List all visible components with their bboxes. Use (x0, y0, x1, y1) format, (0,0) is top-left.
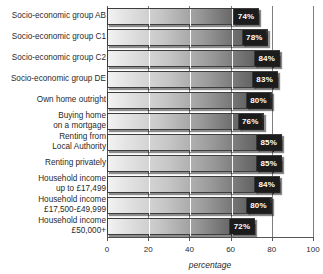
x-tick-label-20: 20 (144, 245, 153, 254)
plot-area: 74%78%84%83%80%76%85%85%84%80%72% 020406… (107, 6, 313, 238)
x-tick-mark-20 (148, 237, 149, 241)
bar-value-label: 80% (246, 93, 271, 108)
category-label: Renting privately (0, 158, 106, 168)
bar-gridline-tick (149, 177, 150, 194)
bar-value-label: 72% (230, 219, 255, 234)
bar-value-label: 85% (256, 135, 281, 150)
x-axis-label: percentage (107, 260, 313, 270)
bar-gridline-tick (190, 9, 191, 26)
bar-row: 83% (107, 71, 313, 88)
bar-gridline-tick (232, 93, 233, 110)
bar-gridline-tick (190, 72, 191, 89)
bar-row: 80% (107, 197, 313, 214)
bar-row: 76% (107, 113, 313, 130)
x-tick-label-100: 100 (306, 245, 319, 254)
bar-row: 78% (107, 29, 313, 46)
bar-gridline-tick (232, 198, 233, 215)
bar-gridline-tick (149, 114, 150, 131)
x-tick-label-0: 0 (105, 245, 109, 254)
bar-gridline-tick (149, 51, 150, 68)
bar-gridline-tick (190, 51, 191, 68)
bar-row: 72% (107, 218, 313, 235)
x-tick-mark-100 (313, 237, 314, 241)
bar-gridline-tick (232, 114, 233, 131)
bar-value-label: 78% (242, 30, 267, 45)
x-tick-mark-80 (272, 237, 273, 241)
bar-gridline-tick (149, 9, 150, 26)
bar-value-label: 83% (252, 72, 277, 87)
x-axis-line (107, 237, 313, 238)
category-label: Socio-economic group DE (0, 74, 106, 84)
bar-gridline-tick (149, 198, 150, 215)
bar-row: 84% (107, 176, 313, 193)
bar-gridline-tick (190, 114, 191, 131)
x-tick-mark-40 (189, 237, 190, 241)
x-tick-mark-60 (231, 237, 232, 241)
bar-gridline-tick (190, 93, 191, 110)
bar-gridline-tick (232, 30, 233, 47)
bar-gridline-tick (232, 135, 233, 152)
bar-gridline-tick (190, 177, 191, 194)
x-tick-label-60: 60 (226, 245, 235, 254)
x-tick-label-40: 40 (185, 245, 194, 254)
bar-gridline-tick (190, 135, 191, 152)
category-label: Household income £50,000+ (0, 216, 106, 235)
bar-gridline-tick (149, 156, 150, 173)
bar-value-label: 84% (254, 51, 279, 66)
bar-row: 84% (107, 50, 313, 67)
bar-gridline-tick (149, 93, 150, 110)
bar-row: 74% (107, 8, 313, 25)
bar-gridline-tick (232, 51, 233, 68)
bar-gridline-tick (190, 156, 191, 173)
category-label: Socio-economic group AB (0, 11, 106, 21)
bar-value-label: 80% (246, 198, 271, 213)
x-tick-label-80: 80 (267, 245, 276, 254)
category-label: Own home outright (0, 95, 106, 105)
category-label: Household income up to £17,499 (0, 174, 106, 193)
bar-value-label: 76% (238, 114, 263, 129)
bar-row: 85% (107, 155, 313, 172)
bar-gridline-tick (190, 198, 191, 215)
category-label: Household income £17,500-£49,999 (0, 195, 106, 214)
bar-value-label: 84% (254, 177, 279, 192)
bar-gridline-tick (149, 135, 150, 152)
category-label: Buying home on a mortgage (0, 111, 106, 130)
x-tick-mark-0 (107, 237, 108, 241)
bar-row: 80% (107, 92, 313, 109)
bar-gridline-tick (149, 72, 150, 89)
bar-chart: 74%78%84%83%80%76%85%85%84%80%72% 020406… (0, 0, 323, 274)
bar-gridline-tick (232, 72, 233, 89)
category-label: Socio-economic group C2 (0, 53, 106, 63)
category-label: Socio-economic group C1 (0, 32, 106, 42)
bar-gridline-tick (232, 177, 233, 194)
bar-gridline-tick (190, 219, 191, 236)
bar-row: 85% (107, 134, 313, 151)
bar-gridline-tick (149, 219, 150, 236)
bar-gridline-tick (232, 9, 233, 26)
bar-gridline-tick (232, 156, 233, 173)
bar-gridline-tick (149, 30, 150, 47)
category-label: Renting from Local Authority (0, 132, 106, 151)
bar-gridline-tick (190, 30, 191, 47)
gridline-100 (313, 6, 314, 238)
bar-value-label: 74% (234, 9, 259, 24)
bar-value-label: 85% (256, 156, 281, 171)
